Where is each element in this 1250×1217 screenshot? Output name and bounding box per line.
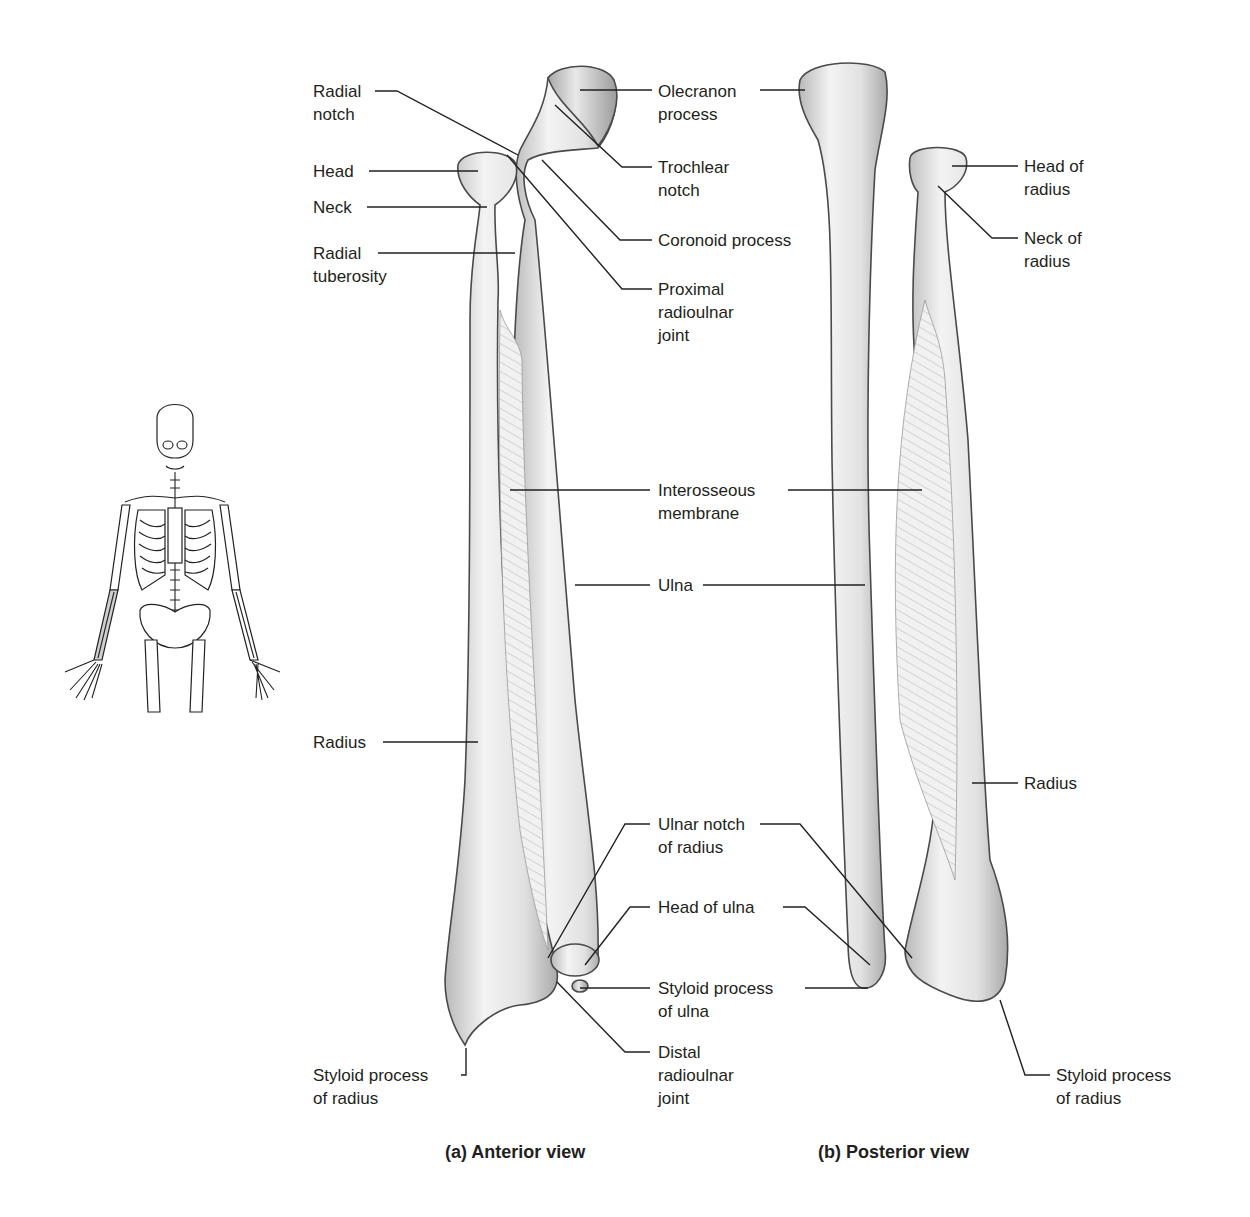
label-olecranon-process: Olecranon process xyxy=(658,82,741,124)
posterior-ulna-shape xyxy=(799,63,887,988)
label-head-of-radius: Head of radius xyxy=(1024,157,1088,199)
label-neck-of-radius: Neck of radius xyxy=(1024,229,1086,271)
label-ulnar-notch-of-radius: Ulnar notch of radius xyxy=(658,815,750,857)
label-styloid-process-of-radius-anterior: Styloid process of radius xyxy=(313,1066,433,1108)
label-distal-radioulnar-joint: Distal radioulnar joint xyxy=(657,1043,738,1108)
skeleton-orientation-icon xyxy=(65,405,280,713)
label-proximal-radioulnar-joint: Proximal radioulnar joint xyxy=(657,280,738,345)
label-neck: Neck xyxy=(313,198,352,217)
forearm-bones-figure: Radial notch Head Neck Radial tuberosity… xyxy=(0,0,1250,1217)
label-head-of-ulna: Head of ulna xyxy=(658,898,755,917)
label-styloid-process-of-ulna: Styloid process of ulna xyxy=(658,979,778,1021)
label-interosseous-membrane: Interosseous membrane xyxy=(658,481,760,523)
label-coronoid-process: Coronoid process xyxy=(658,231,791,250)
caption-anterior-view: (a) Anterior view xyxy=(445,1142,586,1162)
label-styloid-process-of-radius-posterior: Styloid process of radius xyxy=(1056,1066,1176,1108)
label-radial-tuberosity: Radial tuberosity xyxy=(313,244,387,286)
anterior-view-illustration xyxy=(445,66,617,1045)
label-radius-posterior: Radius xyxy=(1024,774,1077,793)
label-radius-anterior: Radius xyxy=(313,733,366,752)
label-radial-notch: Radial notch xyxy=(313,82,366,124)
labels: Radial notch Head Neck Radial tuberosity… xyxy=(313,82,1176,1162)
label-ulna: Ulna xyxy=(658,576,694,595)
label-head: Head xyxy=(313,162,354,181)
label-trochlear-notch: Trochlear notch xyxy=(658,158,734,200)
caption-posterior-view: (b) Posterior view xyxy=(818,1142,970,1162)
